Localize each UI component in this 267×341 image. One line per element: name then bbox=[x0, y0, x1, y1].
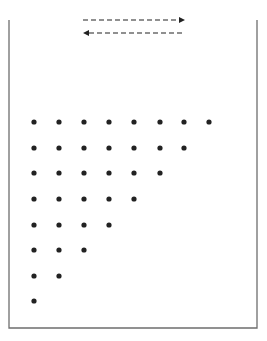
dot bbox=[31, 119, 36, 124]
dot bbox=[31, 247, 36, 252]
dot bbox=[56, 170, 61, 175]
dot bbox=[31, 222, 36, 227]
dot-row bbox=[31, 170, 162, 175]
dot bbox=[157, 170, 162, 175]
dot bbox=[106, 222, 111, 227]
dot bbox=[131, 170, 136, 175]
dot bbox=[56, 273, 61, 278]
dot-row bbox=[31, 196, 136, 201]
dot bbox=[181, 119, 186, 124]
dot bbox=[56, 119, 61, 124]
dot bbox=[81, 170, 86, 175]
dot bbox=[31, 273, 36, 278]
dot-array bbox=[31, 119, 211, 303]
dot-row bbox=[31, 298, 36, 303]
dot bbox=[157, 119, 162, 124]
dot bbox=[81, 145, 86, 150]
dot bbox=[81, 247, 86, 252]
dot bbox=[31, 170, 36, 175]
diagram-canvas bbox=[0, 0, 267, 341]
dot bbox=[206, 119, 211, 124]
dot bbox=[181, 145, 186, 150]
dot bbox=[31, 298, 36, 303]
dot bbox=[106, 145, 111, 150]
dot bbox=[56, 196, 61, 201]
dot bbox=[31, 145, 36, 150]
dot bbox=[131, 196, 136, 201]
dot bbox=[131, 145, 136, 150]
dot bbox=[81, 222, 86, 227]
dot-row bbox=[31, 273, 61, 278]
dot bbox=[106, 119, 111, 124]
dot bbox=[106, 196, 111, 201]
dot bbox=[106, 170, 111, 175]
dot bbox=[56, 145, 61, 150]
dot bbox=[31, 196, 36, 201]
dot bbox=[131, 119, 136, 124]
dot-row bbox=[31, 145, 186, 150]
dot bbox=[81, 196, 86, 201]
arrow-right-icon bbox=[83, 17, 185, 23]
dot bbox=[157, 145, 162, 150]
arrow-left-icon bbox=[83, 30, 185, 36]
dot bbox=[56, 222, 61, 227]
dot-row bbox=[31, 119, 211, 124]
dot-row bbox=[31, 222, 111, 227]
dot-row bbox=[31, 247, 86, 252]
dot bbox=[81, 119, 86, 124]
arrow-group bbox=[83, 17, 185, 36]
diagram-svg bbox=[0, 0, 267, 341]
dot bbox=[56, 247, 61, 252]
